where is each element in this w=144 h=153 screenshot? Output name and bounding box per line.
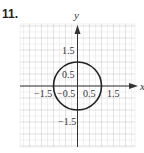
x-tick-label: 0.5 [83, 88, 96, 99]
y-tick-label: 0.5 [62, 69, 75, 80]
y-axis-arrow-icon [75, 25, 81, 34]
y-tick-label: −1.5 [58, 116, 76, 127]
x-axis-arrow-icon [129, 83, 138, 89]
x-tick-label: −0.5 [57, 88, 75, 99]
y-axis-label: y [73, 9, 79, 21]
y-tick-label: 1.5 [62, 45, 75, 56]
x-tick-label: 1.5 [107, 88, 120, 99]
circle-graph: 11. x y −1.5 −0.5 0.5 1.5 1.5 0.5 −1.5 [0, 0, 144, 153]
problem-number: 11. [2, 7, 18, 21]
x-axis-label: x [139, 80, 144, 92]
x-tick-label: −1.5 [34, 88, 52, 99]
